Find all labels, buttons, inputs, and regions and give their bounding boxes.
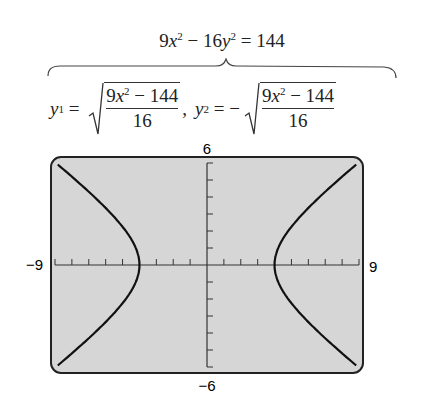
- xmin-label: −9: [26, 256, 43, 273]
- ymax-label: 6: [203, 140, 211, 157]
- graphing-calculator-screen: 6 −6 −9 9: [0, 0, 444, 401]
- xmax-label: 9: [369, 258, 377, 275]
- ymin-label: −6: [198, 377, 215, 394]
